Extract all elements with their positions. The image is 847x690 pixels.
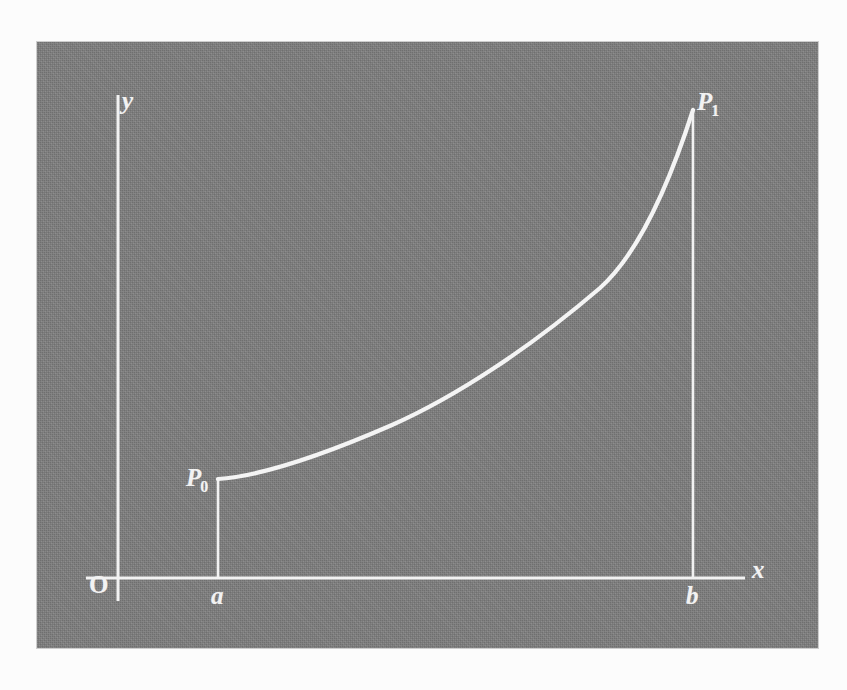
origin-label: O — [89, 572, 108, 597]
y-axis-label: y — [122, 88, 133, 113]
x-axis-label: x — [752, 557, 765, 582]
start-point-label: P0 — [186, 465, 208, 495]
start-point-subscript: 0 — [200, 478, 208, 495]
end-point-subscript: 1 — [711, 102, 719, 119]
end-point-letter: P — [697, 88, 712, 115]
right-bound-label: b — [686, 583, 699, 608]
end-point-label: P1 — [697, 89, 719, 119]
left-bound-label: a — [211, 583, 224, 608]
halftone-plate-background — [37, 42, 818, 648]
start-point-letter: P — [186, 464, 201, 491]
figure-root: O y x a b P0 P1 — [0, 0, 847, 690]
